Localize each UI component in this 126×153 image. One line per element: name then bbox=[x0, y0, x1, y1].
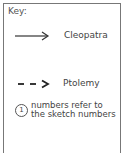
legend-box: Key: Cleopatra Ptolemy 1 numbers refer t… bbox=[3, 3, 121, 153]
sketch-number-icon: 1 bbox=[15, 104, 28, 117]
legend-label-ptolemy: Ptolemy bbox=[63, 78, 100, 88]
dashed-arrow-icon bbox=[17, 79, 53, 89]
legend-title: Key: bbox=[8, 6, 27, 16]
legend-label-cleopatra: Cleopatra bbox=[64, 30, 108, 40]
legend-note-line2: the sketch numbers bbox=[31, 110, 116, 119]
solid-arrow-icon bbox=[14, 31, 50, 41]
